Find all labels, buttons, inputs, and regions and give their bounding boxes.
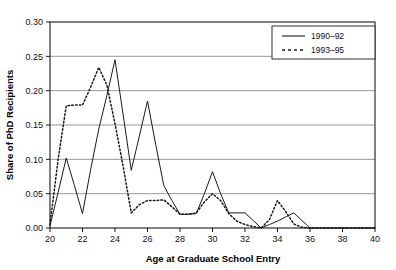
x-tick-label-28: 28 [175, 234, 185, 244]
chart-legend: 1990–921993–95 [272, 26, 375, 59]
x-tick-label-26: 26 [142, 234, 152, 244]
y-tick-label-0.05: 0.05 [25, 189, 43, 199]
chart-figure: 2022242628303234363840 0.000.050.100.150… [0, 0, 396, 270]
x-tick-label-40: 40 [370, 234, 380, 244]
x-tick-label-34: 34 [272, 234, 282, 244]
legend-label-2: 1993–95 [311, 45, 344, 55]
y-tick-label-0.00: 0.00 [25, 223, 43, 233]
y-tick-label-0.30: 0.30 [25, 17, 43, 27]
x-tick-label-32: 32 [240, 234, 250, 244]
y-axis-title: Share of PhD Recipients [4, 70, 15, 180]
y-tick-label-0.15: 0.15 [25, 120, 43, 130]
x-tick-label-30: 30 [207, 234, 217, 244]
x-tick-label-24: 24 [110, 234, 120, 244]
x-tick-label-38: 38 [337, 234, 347, 244]
x-tick-label-20: 20 [45, 234, 55, 244]
x-tick-label-22: 22 [77, 234, 87, 244]
y-tick-label-0.20: 0.20 [25, 86, 43, 96]
y-tick-label-0.10: 0.10 [25, 155, 43, 165]
x-axis-title: Age at Graduate School Entry [146, 253, 281, 264]
line-chart: 2022242628303234363840 0.000.050.100.150… [0, 0, 396, 270]
y-tick-label-0.25: 0.25 [25, 52, 43, 62]
legend-label-1: 1990–92 [311, 31, 344, 41]
x-tick-label-36: 36 [305, 234, 315, 244]
